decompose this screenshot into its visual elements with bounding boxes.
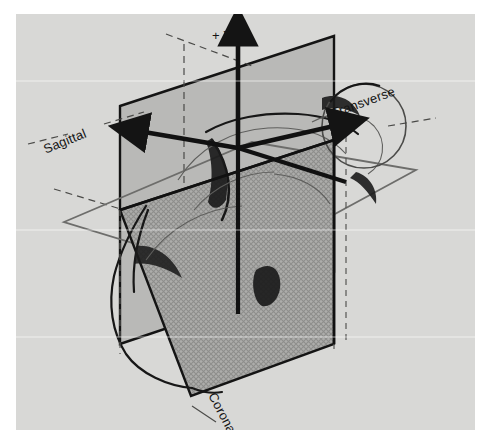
transverse-leader [388,118,436,126]
axis-label-y: + Y [212,28,232,43]
scan-streak [16,229,475,231]
scanned-figure: Sagittal Transverse Coronal + X + Y + Z [16,14,475,430]
figure-page: Sagittal Transverse Coronal + X + Y + Z [0,0,493,443]
anatomical-planes-drawing [16,14,475,430]
scan-streak [16,336,475,338]
axis-label-z: + Z [328,118,348,133]
scan-streak [16,80,475,82]
axis-label-x: + X [120,118,140,133]
